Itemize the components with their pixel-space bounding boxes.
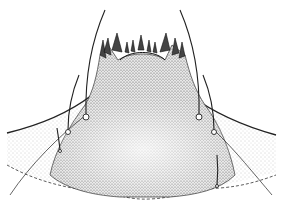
anatomical-illustration (0, 0, 285, 210)
stippled-drawing (0, 0, 285, 210)
